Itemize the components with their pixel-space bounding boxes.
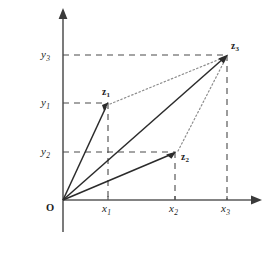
x2-axis-label-sub: 2	[174, 208, 178, 217]
z3-point-label: z3	[231, 42, 239, 52]
z2-point-label-text: z	[181, 152, 185, 162]
vectors-group	[63, 55, 228, 200]
z2-point-label-sub: 2	[186, 156, 190, 164]
z3-point-label-text: z	[231, 41, 235, 51]
origin-label: O	[46, 203, 54, 214]
z3-point-label-sub: 3	[236, 45, 240, 53]
x1-axis-label-sub: 1	[107, 208, 111, 217]
y1-axis-label-sub: 1	[46, 102, 50, 111]
vector-o-z2	[63, 154, 172, 200]
y-axis-arrow-icon	[59, 8, 68, 19]
y2-axis-label-sub: 2	[46, 151, 50, 160]
z2-point-label: z2	[181, 153, 189, 163]
origin-label-text: O	[46, 202, 54, 213]
y1-axis-label: y1	[41, 97, 50, 108]
z1-point-label-text: z	[102, 87, 106, 97]
vector-diagram-figure: O x1 x2 x3 y3 y1 y2 z1 z2 z3	[0, 0, 264, 257]
y2-axis-label: y2	[41, 146, 50, 157]
z1-point-label-sub: 1	[107, 91, 111, 99]
x-axis-arrow-icon	[251, 196, 262, 205]
connector-z1-z3	[110, 57, 225, 104]
x3-axis-label-sub: 3	[226, 208, 230, 217]
x2-axis-label: x2	[169, 203, 178, 214]
y3-axis-label: y3	[41, 49, 50, 60]
z1-point-label: z1	[102, 88, 110, 98]
plot-canvas	[0, 0, 264, 257]
vector-o-z1	[63, 107, 106, 200]
vector-o-z3	[63, 58, 224, 200]
connector-z2-z3	[178, 58, 226, 151]
x3-axis-label: x3	[221, 203, 230, 214]
y3-axis-label-sub: 3	[46, 54, 50, 63]
x1-axis-label: x1	[102, 203, 111, 214]
